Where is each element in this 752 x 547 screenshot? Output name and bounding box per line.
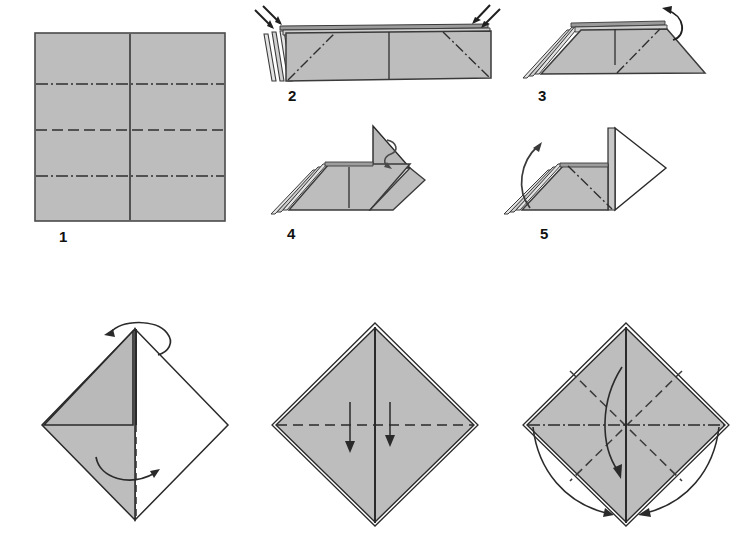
upper-left-flap [44,331,133,425]
origami-diagram-page: 1 [0,0,752,547]
step-4-figure [265,118,480,253]
step-8: 8 [500,305,752,547]
step-7: 7 [250,305,500,547]
step-5-figure [490,118,705,253]
step-1-figure [0,0,250,262]
step-3-label: 3 [538,88,546,103]
standing-spine [608,128,615,210]
step-4: 4 [265,118,480,253]
paper-back-triangle [615,128,666,210]
step-2: 2 [250,0,505,115]
step-5-label: 5 [540,226,548,241]
step-6: 6 [0,305,250,547]
diamond-half-white [135,329,228,520]
step-2-label: 2 [288,88,296,103]
step-6-figure [0,305,250,547]
step-5: 5 [490,118,705,253]
step-1-label: 1 [59,229,67,244]
arrow-top-left-pair [255,6,282,29]
step-8-figure [500,305,752,547]
step-4-label: 4 [287,226,295,241]
step-3: 3 [505,0,752,115]
step-1: 1 [0,0,250,262]
ridge-strip [325,162,373,166]
flap-triangle [373,126,410,168]
step-7-figure [250,305,500,547]
ridge-strip [560,163,608,167]
